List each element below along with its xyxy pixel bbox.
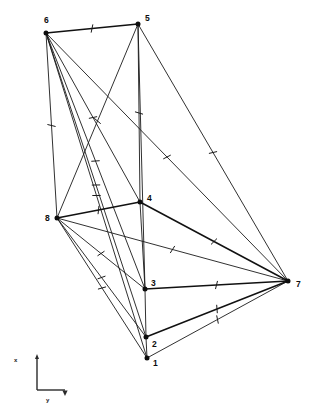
tick-mark-2-7 — [217, 305, 218, 313]
tick-mark-6-3 — [91, 161, 99, 162]
node-label-3: 3 — [151, 278, 156, 288]
tick-mark-8-4 — [98, 206, 99, 214]
node-dot-5[interactable] — [136, 22, 141, 27]
node-label-4: 4 — [147, 193, 152, 203]
axis-x-label: x — [14, 357, 18, 363]
node-dot-7[interactable] — [286, 279, 291, 284]
node-label-6: 6 — [44, 15, 49, 25]
graph-figure: 12345678 xy — [0, 0, 315, 416]
node-dot-2[interactable] — [144, 335, 149, 340]
node-dot-4[interactable] — [138, 200, 143, 205]
axis-y-arrow-icon — [62, 391, 67, 397]
edge-layer — [46, 24, 288, 358]
node-dot-8[interactable] — [55, 216, 60, 221]
node-layer: 12345678 — [44, 13, 302, 368]
tick-mark-4-7 — [211, 239, 217, 245]
tick-mark-6-7 — [163, 155, 170, 159]
edge-3-2 — [145, 289, 146, 337]
node-label-8: 8 — [45, 213, 50, 223]
axis-indicator: xy — [14, 354, 68, 403]
node-label-1: 1 — [153, 358, 158, 368]
axis-y-label: y — [46, 397, 50, 403]
axis-x-arrow-icon — [35, 354, 39, 359]
node-label-5: 5 — [145, 13, 150, 23]
node-dot-6[interactable] — [44, 31, 49, 36]
node-label-2: 2 — [152, 339, 157, 349]
tick-mark-8-2 — [98, 276, 106, 279]
node-dot-3[interactable] — [143, 287, 148, 292]
node-label-7: 7 — [296, 279, 301, 289]
node-dot-1[interactable] — [145, 356, 150, 361]
